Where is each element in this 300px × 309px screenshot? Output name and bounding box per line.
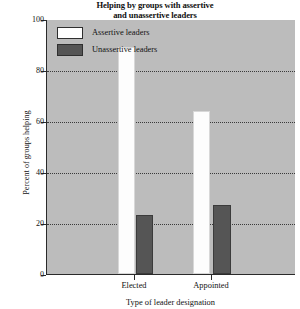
gridline-60 xyxy=(47,122,295,123)
bar-appointed-assertive xyxy=(193,111,210,274)
bar-appointed-unassertive xyxy=(213,205,231,274)
gridline-20 xyxy=(47,224,295,225)
gridline-40 xyxy=(47,173,295,174)
legend-item-assertive: Assertive leaders xyxy=(57,24,232,41)
plot-area xyxy=(46,20,295,275)
legend-swatch-assertive-icon xyxy=(57,27,83,39)
xtick-mark-appointed xyxy=(211,275,212,280)
ytick-label-0: 0 xyxy=(10,271,44,279)
chart-title: Helping by groups with assertive and una… xyxy=(55,1,255,20)
legend-label-assertive: Assertive leaders xyxy=(92,28,149,37)
y-axis-label: Percent of groups helping xyxy=(22,73,31,233)
bar-elected-assertive xyxy=(118,47,135,274)
x-axis-label: Type of leader designation xyxy=(46,298,295,307)
legend-swatch-unassertive-icon xyxy=(57,44,83,56)
ytick-label-100: 100 xyxy=(10,16,44,24)
xtick-mark-elected xyxy=(134,275,135,280)
bar-elected-unassertive xyxy=(136,215,153,274)
bar-chart-figure: Helping by groups with assertive and una… xyxy=(0,0,300,309)
gridline-80 xyxy=(47,71,295,72)
legend-label-unassertive: Unassertive leaders xyxy=(92,45,157,54)
chart-legend: Assertive leaders Unassertive leaders xyxy=(57,24,232,58)
legend-item-unassertive: Unassertive leaders xyxy=(57,41,232,58)
xtick-label-appointed: Appointed xyxy=(166,281,256,290)
